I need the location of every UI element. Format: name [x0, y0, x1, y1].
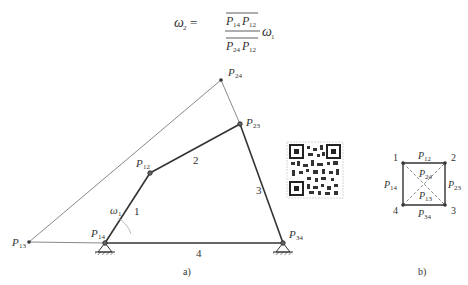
link-3	[240, 124, 283, 243]
vertex-4-label: 4	[393, 205, 398, 216]
label-p23-sub: 23	[253, 122, 261, 130]
qr-code	[287, 142, 343, 198]
formula-rhs-sub: 1	[271, 33, 275, 41]
vertex-2	[443, 161, 447, 165]
denominator-p2-sub: 12	[249, 46, 257, 54]
vertex-3	[443, 203, 447, 207]
label-p13: P	[11, 236, 19, 248]
formula-equals: =	[190, 15, 197, 30]
instant-centers	[27, 78, 285, 245]
velocity-ratio-formula: ω 2 = P 14 P 12 P 24 P 12 ω 1	[174, 13, 275, 54]
edge-p34-sub: 34	[424, 213, 432, 221]
point-p13	[27, 240, 31, 244]
edge-p24-sub: 24	[425, 173, 433, 181]
edge-p14-sub: 14	[390, 184, 398, 192]
construction-lines	[29, 80, 240, 243]
edge-p23-sub: 23	[454, 184, 462, 192]
vertex-2-label: 2	[451, 152, 456, 163]
point-p23	[238, 122, 242, 126]
edge-p13-sub: 13	[425, 195, 433, 203]
instant-center-graph: 1 2 3 4 P 12 P 14 P 23 P 34 P 24 P 13	[383, 150, 462, 221]
formula-lhs-sub: 2	[183, 24, 187, 32]
label-link-4: 4	[196, 247, 202, 259]
denominator-p1-sub: 24	[233, 46, 241, 54]
label-p23: P	[245, 116, 253, 128]
vertex-1-label: 1	[393, 152, 398, 163]
line-p24-p23	[221, 80, 240, 124]
numerator-p2-sub: 12	[249, 21, 257, 29]
vertex-1	[401, 161, 405, 165]
label-p14: P	[90, 227, 98, 239]
label-omega1: ω	[110, 204, 118, 216]
point-labels: P 24 P 23 P 12 P 14 P 34 P 13	[11, 66, 304, 250]
label-link-2: 2	[193, 154, 199, 166]
point-p34	[281, 241, 285, 245]
diagram-canvas: ω 2 = P 14 P 12 P 24 P 12 ω 1	[0, 0, 468, 285]
label-p24: P	[227, 66, 235, 78]
label-p13-sub: 13	[19, 242, 27, 250]
point-p12	[148, 171, 152, 175]
caption-b: b)	[418, 266, 426, 278]
numerator-p1-sub: 14	[233, 21, 241, 29]
edge-p12-sub: 12	[424, 155, 432, 163]
label-omega1-sub: 1	[118, 210, 122, 218]
label-p34: P	[288, 228, 296, 240]
caption-a: a)	[183, 266, 191, 278]
label-p24-sub: 24	[235, 72, 243, 80]
vertex-4	[401, 203, 405, 207]
vertex-3-label: 3	[451, 205, 456, 216]
label-link-3: 3	[256, 184, 262, 196]
line-p13-p14	[29, 242, 105, 243]
label-p12: P	[135, 157, 143, 169]
label-link-1: 1	[134, 205, 140, 217]
label-p34-sub: 34	[296, 234, 304, 242]
label-p14-sub: 14	[98, 233, 106, 241]
label-p12-sub: 12	[143, 163, 151, 171]
point-p24	[219, 78, 223, 82]
point-p14	[103, 241, 107, 245]
